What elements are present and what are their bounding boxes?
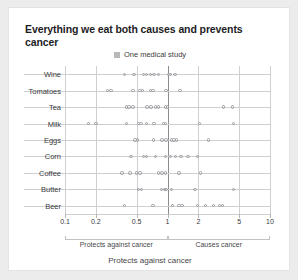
data-point (120, 171, 123, 174)
gridline-vertical (270, 66, 271, 214)
x-axis-tick-label: 5 (237, 218, 241, 225)
axis-brackets: Protects against cancer Causes cancer (65, 236, 270, 254)
data-point (232, 188, 235, 191)
data-point (128, 171, 131, 174)
category-row: Beer (65, 198, 270, 214)
data-point (123, 73, 126, 76)
data-point (164, 89, 167, 92)
y-axis-label: Beer (45, 201, 61, 210)
y-axis-label: Coffee (39, 168, 61, 177)
data-point (127, 105, 130, 108)
data-point (87, 122, 90, 125)
y-axis-label: Tea (49, 103, 61, 112)
data-point (149, 105, 152, 108)
data-point (193, 188, 196, 191)
bracket-label-protects: Protects against cancer (80, 241, 153, 248)
data-point (140, 188, 143, 191)
category-row: Corn (65, 148, 270, 164)
data-point (109, 89, 112, 92)
data-point (164, 155, 167, 158)
data-point (141, 89, 144, 92)
chart-card: Everything we eat both causes and preven… (8, 7, 290, 271)
data-point (152, 138, 155, 141)
data-point (174, 155, 177, 158)
data-point (204, 204, 207, 207)
data-point (136, 138, 139, 141)
data-point (231, 105, 234, 108)
y-axis-label: Milk (48, 119, 61, 128)
bracket-protects (65, 236, 168, 240)
data-point (164, 122, 167, 125)
data-point (166, 105, 169, 108)
data-point (198, 122, 201, 125)
data-point (151, 89, 154, 92)
x-axis-tick-label: 0.1 (60, 218, 70, 225)
data-point (145, 122, 148, 125)
data-point (131, 105, 134, 108)
bracket-label-causes: Causes cancer (195, 241, 242, 248)
x-axis-tick-label: 10 (266, 218, 274, 225)
category-row: Coffee (65, 165, 270, 181)
category-row: Wine (65, 66, 270, 82)
category-row: Tomatoes (65, 82, 270, 98)
data-point (173, 73, 176, 76)
data-point (164, 188, 167, 191)
data-point (180, 204, 183, 207)
data-point (171, 204, 174, 207)
data-point (196, 155, 199, 158)
data-point (94, 122, 97, 125)
legend-swatch-icon (114, 52, 120, 58)
y-axis-label: Wine (44, 70, 61, 79)
data-point (199, 171, 202, 174)
data-point (123, 204, 126, 207)
y-axis-label: Corn (45, 152, 61, 161)
data-point (145, 155, 148, 158)
data-point (196, 204, 199, 207)
data-point (145, 105, 148, 108)
category-row: Butter (65, 181, 270, 197)
bracket-causes (168, 236, 271, 240)
data-point (132, 73, 135, 76)
data-point (157, 105, 160, 108)
data-point (151, 204, 154, 207)
data-point (179, 155, 182, 158)
data-point (145, 73, 148, 76)
category-row: Tea (65, 99, 270, 115)
x-axis-tick-label: 0.5 (132, 218, 142, 225)
data-point (170, 188, 173, 191)
chart-legend: One medical study (9, 50, 291, 59)
data-point (232, 122, 235, 125)
y-axis-label: Tomatoes (28, 86, 61, 95)
data-point (129, 155, 132, 158)
x-axis-tick-label: 2 (196, 218, 200, 225)
data-point (169, 155, 172, 158)
legend-label: One medical study (124, 50, 186, 59)
data-point (138, 171, 141, 174)
data-point (177, 171, 180, 174)
plot-area: WineTomatoesTeaMilkEggsCornCoffeeButterB… (65, 66, 270, 214)
data-point (160, 171, 163, 174)
data-point (157, 73, 160, 76)
data-point (152, 122, 155, 125)
data-point (207, 138, 210, 141)
category-row: Eggs (65, 132, 270, 148)
data-point (175, 138, 178, 141)
data-point (152, 73, 155, 76)
data-point (131, 89, 134, 92)
data-point (222, 105, 225, 108)
data-point (164, 171, 167, 174)
data-point (154, 155, 157, 158)
data-point (160, 138, 163, 141)
y-axis-label: Butter (41, 185, 61, 194)
x-axis: 0.10.20.512510 (65, 214, 270, 224)
data-point (169, 73, 172, 76)
data-point (212, 204, 215, 207)
data-point (164, 138, 167, 141)
data-point (139, 122, 142, 125)
data-point (125, 122, 128, 125)
chart-title: Everything we eat both causes and preven… (25, 23, 277, 49)
chart-caption: Protects against cancer (9, 256, 291, 265)
data-point (221, 204, 224, 207)
category-row: Milk (65, 115, 270, 131)
y-axis-label: Eggs (44, 135, 61, 144)
